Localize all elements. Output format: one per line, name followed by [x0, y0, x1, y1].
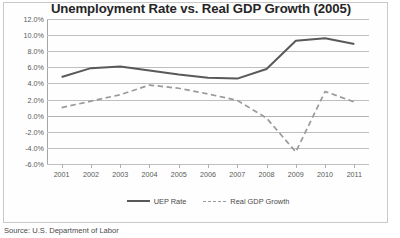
x-axis-tick	[354, 164, 355, 168]
x-axis-tick	[91, 164, 92, 168]
y-axis-tick-label: 4.0%	[2, 79, 44, 88]
series-line	[62, 85, 355, 152]
x-axis-tick	[179, 164, 180, 168]
y-axis-tick-label: -4.0%	[2, 143, 44, 152]
legend-item[interactable]: Real GDP Growth	[203, 197, 289, 206]
y-axis-tick-label: 8.0%	[2, 47, 44, 56]
x-axis-tick-label: 2011	[334, 170, 374, 179]
y-axis-tick-label: 0.0%	[2, 111, 44, 120]
series-line	[62, 38, 355, 78]
chart-legend: UEP RateReal GDP Growth	[47, 194, 369, 208]
legend-item[interactable]: UEP Rate	[127, 197, 187, 206]
x-axis-tick	[296, 164, 297, 168]
legend-label: UEP Rate	[154, 197, 187, 206]
x-axis-labels: 2001200220032004200520062007200820092010…	[47, 170, 369, 184]
x-axis-tick	[120, 164, 121, 168]
y-axis-tick-label: -2.0%	[2, 127, 44, 136]
x-axis-tick	[208, 164, 209, 168]
y-axis-tick-label: 10.0%	[2, 31, 44, 40]
legend-label: Real GDP Growth	[230, 197, 289, 206]
x-axis-tick	[267, 164, 268, 168]
chart-title: Unemployment Rate vs. Real GDP Growth (2…	[46, 1, 356, 16]
legend-swatch-icon	[127, 200, 150, 202]
x-axis-tick	[237, 164, 238, 168]
screenshot-root: Unemployment Rate vs. Real GDP Growth (2…	[0, 0, 400, 238]
source-note: Source: U.S. Department of Labor	[4, 226, 119, 235]
plot-area	[47, 19, 369, 164]
y-axis-tick-label: 2.0%	[2, 95, 44, 104]
y-axis-labels: 12.0%10.0%8.0%6.0%4.0%2.0%0.0%-2.0%-4.0%…	[0, 0, 44, 238]
x-axis-tick	[149, 164, 150, 168]
legend-swatch-icon	[203, 201, 226, 202]
x-axis-tick	[62, 164, 63, 168]
y-axis-tick-label: 12.0%	[2, 15, 44, 24]
y-axis-tick-label: 6.0%	[2, 63, 44, 72]
x-axis-tick	[325, 164, 326, 168]
series-lines	[47, 19, 369, 164]
y-axis-tick-label: -6.0%	[2, 160, 44, 169]
